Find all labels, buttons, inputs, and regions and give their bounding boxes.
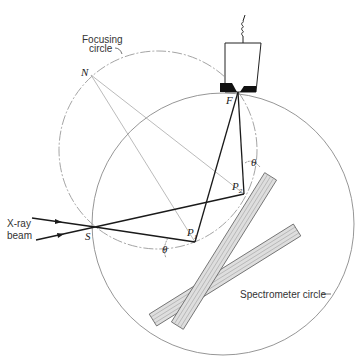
theta-label-2: θ — [251, 156, 257, 168]
point-P2-label: P2 — [231, 180, 243, 195]
point-N-label: N — [80, 66, 89, 78]
detector — [220, 15, 261, 92]
point-F-label: F — [225, 94, 233, 106]
point-S-label: S — [85, 230, 91, 242]
xray-rays — [32, 92, 244, 242]
xray-beam-label-2: beam — [7, 230, 32, 241]
spectrometer-diagram: Focusing circle N S F P1 P2 θ θ X-ray be… — [0, 0, 359, 364]
focusing-circle-label-2: circle — [89, 43, 113, 54]
spectrometer-circle-label: Spectrometer circle — [240, 289, 327, 300]
theta-label-1: θ — [162, 243, 168, 255]
point-P1-label: P1 — [186, 226, 197, 241]
spectrometer-circle — [92, 93, 354, 355]
xray-beam-label-1: X-ray — [7, 218, 31, 229]
